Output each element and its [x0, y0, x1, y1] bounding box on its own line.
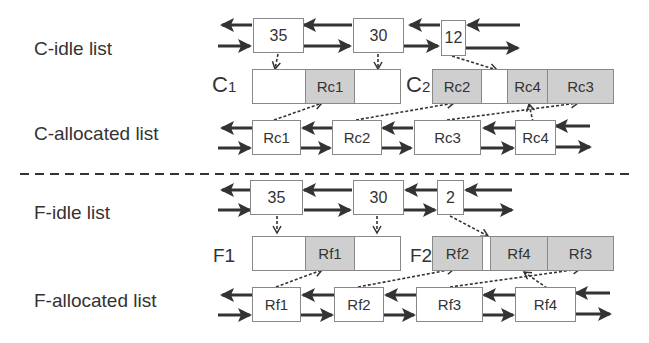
c-allocated-list-label: C-allocated list — [34, 123, 159, 145]
f-allocated-to-segment-pointers — [276, 269, 580, 288]
f1-cell-free — [354, 236, 401, 271]
c-idle-node: 12 — [441, 20, 466, 56]
c-idle-node: 30 — [353, 18, 404, 53]
c-allocated-node: Rc1 — [252, 120, 301, 155]
c1-cell-free — [252, 69, 306, 104]
f-idle-node: 2 — [437, 180, 464, 215]
segment-f2-label: F2 — [410, 245, 432, 267]
c2-cell-free — [481, 69, 508, 104]
f1-cell-rf1: Rf1 — [305, 236, 355, 271]
c2-cell-rc2: Rc2 — [432, 69, 482, 104]
segment-c1-label: C1 — [212, 72, 236, 98]
c1-cell-free — [354, 69, 401, 104]
f-idle-list-label: F-idle list — [34, 202, 110, 224]
f-allocated-node: Rf4 — [515, 287, 576, 322]
c-idle-list-label: C-idle list — [34, 38, 112, 60]
c2-cell-rc3: Rc3 — [547, 69, 614, 104]
c-allocated-node: Rc2 — [332, 120, 382, 155]
f-idle-to-segment-pointers — [277, 216, 488, 236]
c-idle-to-segment-pointers — [275, 54, 497, 70]
c-idle-node: 35 — [253, 18, 304, 53]
f-allocated-list-label: F-allocated list — [34, 290, 157, 312]
c1-cell-rc1: Rc1 — [305, 69, 355, 104]
f2-cell-rf4: Rf4 — [490, 236, 548, 271]
c-allocated-node: Rc3 — [414, 120, 481, 155]
f-idle-node: 35 — [250, 180, 303, 215]
f-allocated-node: Rf2 — [334, 287, 384, 322]
f2-cell-rf3: Rf3 — [547, 236, 614, 271]
f2-cell-rf2: Rf2 — [432, 236, 483, 271]
c-allocated-node: Rc4 — [515, 120, 556, 155]
c2-cell-rc4: Rc4 — [507, 69, 548, 104]
f-allocated-node: Rf1 — [252, 287, 301, 322]
f-idle-node: 30 — [353, 180, 404, 215]
f1-cell-free — [252, 236, 306, 271]
segment-c2-label: C2 — [406, 72, 430, 98]
segment-f1-label: F1 — [213, 245, 235, 267]
f-allocated-node: Rf3 — [416, 287, 483, 322]
